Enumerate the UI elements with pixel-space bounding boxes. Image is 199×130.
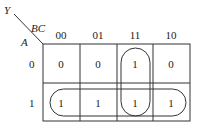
row-label-1: 1 <box>29 98 35 109</box>
cell-1-10: 1 <box>153 98 189 109</box>
row-label-0: 0 <box>29 59 35 70</box>
cell-0-11: 1 <box>117 59 153 70</box>
cell-1-00: 1 <box>43 98 79 109</box>
cell-0-10: 0 <box>153 59 189 70</box>
cell-0-00: 0 <box>43 59 79 70</box>
col-label-10: 10 <box>153 30 189 41</box>
output-var-label: Y <box>4 5 10 16</box>
cell-0-01: 0 <box>80 59 116 70</box>
cell-1-01: 1 <box>80 98 116 109</box>
col-label-11: 11 <box>117 30 153 41</box>
cell-1-11: 1 <box>117 98 153 109</box>
col-label-01: 01 <box>80 30 116 41</box>
row-vars-label: A <box>21 37 28 48</box>
col-label-00: 00 <box>43 30 79 41</box>
